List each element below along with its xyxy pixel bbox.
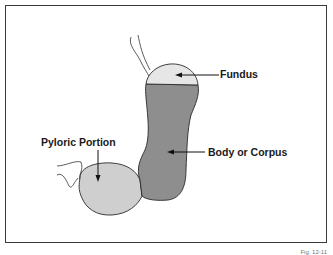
figure-caption: Fig. 12-11 [300,249,327,255]
esophagus-line-left [130,37,150,78]
label-fundus: Fundus [220,68,258,80]
esophagus-line-right [138,35,150,70]
body-corpus-region [138,84,198,200]
label-body-corpus: Body or Corpus [208,146,287,158]
label-pyloric-portion: Pyloric Portion [41,136,116,148]
pyloric-region [79,163,142,215]
duodenum-line-top [57,162,82,180]
duodenum-line-bottom [57,174,78,187]
fundus-region [146,64,198,85]
